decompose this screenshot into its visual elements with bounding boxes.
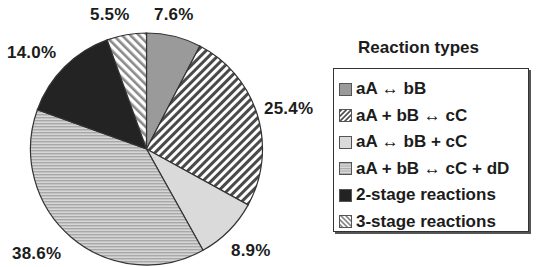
legend-label: aA + bB ↔ cC + dD	[356, 159, 509, 179]
swatch-forward-hatch-icon	[339, 109, 352, 122]
slice-label-14-0: 14.0%	[7, 43, 56, 63]
legend: aA ↔ bB aA + bB ↔ cC aA ↔ bB + cC aA + b…	[333, 68, 529, 232]
swatch-horizontal-lines-icon	[339, 162, 352, 175]
legend-item-aA-bB: aA ↔ bB	[339, 76, 528, 103]
slice-label-8-9: 8.9%	[231, 241, 271, 261]
legend-item-aA-bB-plus-cC: aA ↔ bB + cC	[339, 129, 528, 156]
slice-label-25-4: 25.4%	[264, 99, 313, 119]
legend-label: aA + bB ↔ cC	[356, 106, 467, 126]
legend-item-aA-bB-cC: aA + bB ↔ cC	[339, 103, 528, 130]
legend-item-aA-bB-cC-dD: aA + bB ↔ cC + dD	[339, 156, 528, 183]
legend-title: Reaction types	[358, 38, 479, 58]
swatch-light-gray-icon	[339, 136, 352, 149]
legend-label: 2-stage reactions	[356, 185, 496, 205]
swatch-dark-icon	[339, 189, 352, 202]
legend-label: 3-stage reactions	[356, 212, 496, 232]
swatch-back-hatch-icon	[339, 215, 352, 228]
slice-label-5-5: 5.5%	[90, 5, 130, 25]
slice-label-7-6: 7.6%	[154, 5, 194, 25]
legend-label: aA ↔ bB	[356, 79, 426, 99]
legend-item-2-stage: 2-stage reactions	[339, 182, 528, 209]
pie-slices	[31, 33, 263, 265]
slice-label-38-6: 38.6%	[12, 244, 61, 264]
legend-item-3-stage: 3-stage reactions	[339, 209, 528, 236]
legend-label: aA ↔ bB + cC	[356, 132, 467, 152]
swatch-solid-gray-icon	[339, 83, 352, 96]
